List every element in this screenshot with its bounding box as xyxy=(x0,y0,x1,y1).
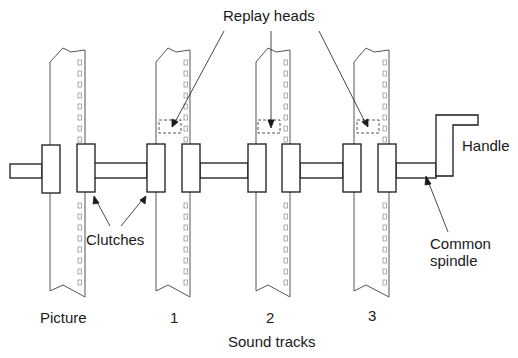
label-picture: Picture xyxy=(40,310,87,327)
label-track-2: 2 xyxy=(266,310,274,327)
label-track-1: 1 xyxy=(170,310,178,327)
label-common-spindle-1: Common xyxy=(430,236,491,253)
label-clutches: Clutches xyxy=(86,232,144,249)
label-replay-heads: Replay heads xyxy=(223,8,315,25)
label-sound-tracks: Sound tracks xyxy=(228,334,316,351)
label-common-spindle-2: spindle xyxy=(430,253,478,270)
label-handle: Handle xyxy=(462,138,510,155)
synchronizer-diagram xyxy=(0,0,518,358)
label-track-3: 3 xyxy=(368,308,376,325)
